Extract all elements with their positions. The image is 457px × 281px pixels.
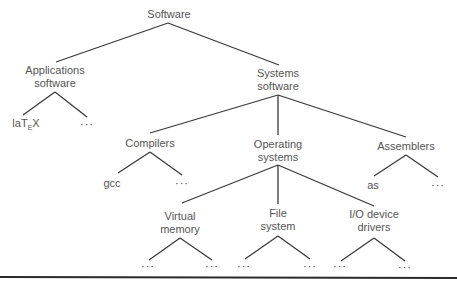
node-io-ellipsis-right: ··· [398, 261, 412, 274]
node-virtual-line1: Virtual [160, 210, 200, 223]
edge-virtual-left [149, 238, 180, 260]
ellipsis-label: ··· [80, 118, 94, 130]
node-software-label: Software [147, 8, 190, 20]
edge-software-applications [56, 23, 168, 62]
node-compilers-ellipsis: ··· [175, 177, 189, 190]
node-systems-line2: software [257, 80, 299, 93]
node-systems-line1: Systems [257, 67, 299, 80]
node-systems-software: Systems software [257, 67, 299, 93]
ellipsis-label: ··· [175, 177, 189, 189]
node-applications-software: Applications software [25, 64, 84, 90]
node-file-system: File system [261, 207, 296, 233]
node-virtual-line2: memory [160, 223, 200, 236]
ellipsis-label: ··· [141, 260, 155, 272]
node-virtual-ellipsis-right: ··· [205, 260, 219, 273]
edge-io-left [341, 238, 374, 261]
node-software: Software [147, 8, 190, 21]
node-compilers: Compilers [125, 137, 175, 150]
node-io-line1: I/O device [349, 208, 399, 221]
node-assemblers: Assemblers [377, 140, 434, 153]
node-operating-line1: Operating [254, 138, 302, 151]
edge-applications-ellipsis [55, 92, 87, 117]
node-io-device-drivers: I/O device drivers [349, 208, 399, 234]
edge-file-right [278, 236, 310, 259]
node-file-ellipsis-right: ··· [303, 260, 317, 273]
latex-sub-e: E [28, 124, 33, 131]
ellipsis-label: ··· [237, 260, 251, 272]
latex-part1: laT [12, 117, 27, 129]
node-io-ellipsis-left: ··· [333, 260, 347, 273]
node-io-line2: drivers [349, 221, 399, 234]
node-operating-line2: systems [254, 151, 302, 164]
node-applications-line1: Applications [25, 64, 84, 77]
node-as: as [367, 179, 379, 192]
edge-compilers-ellipsis [150, 152, 182, 175]
ellipsis-label: ··· [205, 260, 219, 272]
node-virtual-memory: Virtual memory [160, 210, 200, 236]
ellipsis-label: ··· [303, 260, 317, 272]
node-applications-line2: software [25, 77, 84, 90]
node-gcc: gcc [103, 177, 120, 190]
edge-operating-io [278, 165, 374, 206]
edge-compilers-gcc [118, 152, 150, 173]
node-virtual-ellipsis-left: ··· [141, 260, 155, 273]
node-as-label: as [367, 179, 379, 191]
edge-assemblers-ellipsis [406, 155, 438, 177]
edge-software-systems [168, 23, 279, 65]
node-latex: laTEX [12, 117, 39, 131]
edge-assemblers-as [374, 155, 406, 176]
node-file-ellipsis-left: ··· [237, 260, 251, 273]
node-operating-systems: Operating systems [254, 138, 302, 164]
bottom-rule [0, 277, 457, 278]
edge-io-right [374, 238, 405, 261]
latex-part2: X [32, 117, 39, 129]
node-file-line1: File [261, 207, 296, 220]
node-applications-ellipsis: ··· [80, 118, 94, 131]
node-file-line2: system [261, 220, 296, 233]
node-compilers-label: Compilers [125, 137, 175, 149]
edge-file-left [245, 236, 278, 259]
edge-systems-assemblers [278, 95, 406, 137]
ellipsis-label: ··· [398, 261, 412, 273]
edge-applications-latex [23, 92, 55, 115]
node-assemblers-ellipsis: ··· [431, 179, 445, 192]
edge-operating-virtual [182, 165, 278, 203]
node-assemblers-label: Assemblers [377, 140, 434, 152]
ellipsis-label: ··· [333, 260, 347, 272]
edge-virtual-right [180, 238, 212, 260]
node-gcc-label: gcc [103, 177, 120, 189]
ellipsis-label: ··· [431, 179, 445, 191]
edge-systems-compilers [150, 95, 278, 133]
